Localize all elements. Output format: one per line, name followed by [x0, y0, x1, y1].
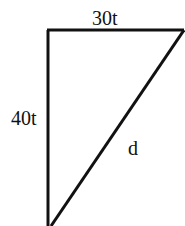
label-left: 40t — [11, 107, 37, 129]
label-top: 30t — [92, 7, 118, 29]
triangle-diagram: 30t 40t d — [0, 0, 185, 226]
label-hypotenuse: d — [128, 137, 138, 159]
hypotenuse — [51, 30, 184, 226]
